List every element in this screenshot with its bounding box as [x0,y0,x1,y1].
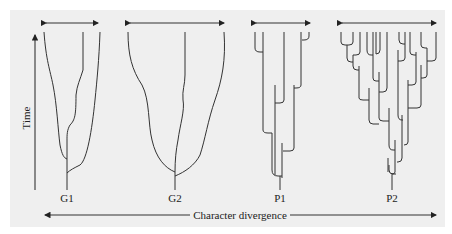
tree-label-g2: G2 [168,192,181,204]
tree-label-g1: G1 [60,192,73,204]
character-divergence-axis: Character divergence [45,209,436,221]
tree-label-p2: P2 [386,192,398,204]
tree-g1: G1 [44,23,100,204]
tree-p2: P2 [341,23,436,204]
time-axis-label: Time [20,106,32,129]
evolution-tempo-diagram: Time G1 G2 P1 [0,0,452,234]
tree-g2: G2 [128,23,225,204]
tree-p1: P1 [255,23,310,204]
time-axis: Time [20,35,35,190]
x-axis-label: Character divergence [193,209,287,221]
tree-label-p1: P1 [274,192,286,204]
